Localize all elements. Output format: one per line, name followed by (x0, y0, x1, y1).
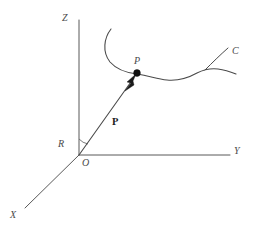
angle-arc-at-origin (79, 139, 88, 144)
point-p-marker (134, 70, 141, 77)
curve-label: C (232, 46, 239, 56)
figure-canvas: Z C P P R Y O X (0, 0, 256, 234)
position-vector-label: P (112, 117, 119, 128)
x-axis-line (25, 155, 79, 208)
figure-vector-graphic (0, 0, 256, 234)
position-vector-shaft (79, 79, 133, 155)
z-axis-label: Z (62, 13, 68, 23)
x-axis-label: X (10, 210, 16, 220)
point-r-label: R (58, 139, 64, 149)
origin-label: O (82, 158, 89, 168)
point-p-label: P (134, 56, 140, 66)
y-axis-label: Y (234, 146, 240, 156)
curve-label-leader-line (205, 48, 228, 70)
space-curve-c (105, 29, 236, 80)
